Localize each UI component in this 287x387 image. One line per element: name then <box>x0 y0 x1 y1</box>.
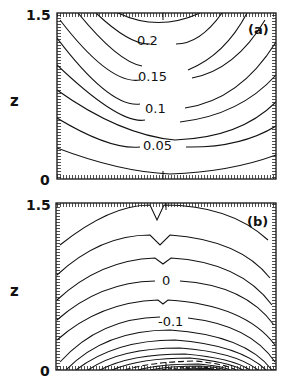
panel-b: 0 -0.1 (b) 1.5 0 z <box>10 197 276 379</box>
contour-label-0.1: 0.1 <box>145 101 166 116</box>
contour-label-neg-0.1: -0.1 <box>158 314 183 329</box>
contour-label-0.2: 0.2 <box>137 33 158 48</box>
panel-b-label: (b) <box>247 214 268 229</box>
panel-b-ytick-bottom: 0 <box>40 363 50 379</box>
panel-a-ytick-top: 1.5 <box>26 7 51 23</box>
panel-a-label: (a) <box>248 22 269 37</box>
figure: 0.2 0.15 0.1 0.05 (a) 1.5 0 z <box>0 0 287 387</box>
panel-a-ylabel: z <box>10 92 19 110</box>
panel-b-ylabel: z <box>10 282 19 300</box>
contour-label-0: 0 <box>162 273 170 288</box>
panel-b-ytick-top: 1.5 <box>26 197 51 213</box>
contour-label-0.15: 0.15 <box>138 69 167 84</box>
contour-label-0.05: 0.05 <box>143 138 172 153</box>
panel-a: 0.2 0.15 0.1 0.05 (a) 1.5 0 z <box>10 7 276 188</box>
panel-a-frame <box>57 13 276 179</box>
panel-a-ytick-bottom: 0 <box>40 172 50 188</box>
